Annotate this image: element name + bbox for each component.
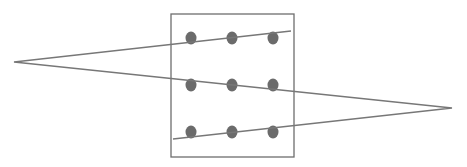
nine-dots-diagram [0, 0, 467, 167]
